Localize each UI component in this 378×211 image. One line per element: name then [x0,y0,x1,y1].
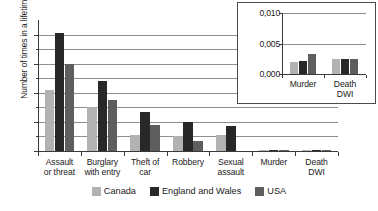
bar [183,122,193,151]
x-axis-tick [338,152,339,156]
legend-swatch-icon [150,187,159,196]
inset-bar [308,54,316,74]
legend-label: Canada [104,186,136,196]
bar [45,90,55,151]
inset-x-axis-tick [282,75,283,78]
bar [216,135,226,151]
bar [259,150,269,151]
y-axis-tick [34,93,39,94]
x-axis-label-line: Murder [249,157,298,167]
bar-chart: Number of times in a lifetime 01234 Assa… [0,0,378,211]
legend-item-england-and-wales: England and Wales [150,186,241,196]
inset-y-axis-tick-label: 0,000 [254,69,280,79]
bar [108,100,118,151]
x-axis-category-label: DeathDWI [292,157,341,177]
x-axis-label-line: with entry [78,167,127,177]
y-axis-tick [36,107,40,108]
x-axis-category-label: Assaultor threat [35,157,84,177]
inset-x-axis-label-line: Death [320,79,370,89]
inset-plot-area: 0,0000,0050,010 MurderDeathDWI [282,13,366,75]
bar [150,125,160,151]
y-axis-tick [36,136,40,137]
legend-swatch-icon [255,187,264,196]
y-axis-tick [34,64,39,65]
x-axis-category-label: Theft ofcar [121,157,170,177]
x-axis-tick [38,152,39,156]
bar [302,150,312,151]
bar [312,150,322,151]
x-axis-category-label: Robbery [164,157,213,167]
inset-bar [332,59,340,74]
x-axis-tick [295,152,296,156]
x-axis-tick [209,152,210,156]
inset-x-axis-tick [324,75,325,78]
legend-label: USA [267,186,286,196]
x-axis-tick [124,152,125,156]
inset-y-axis-tick-label: 0,005 [254,39,280,49]
bar [226,126,236,151]
inset-bar [299,61,307,74]
bar [173,136,183,151]
x-axis-category-label: Sexualassault [206,157,255,177]
bar [87,107,97,151]
y-axis-tick [36,49,40,50]
x-axis-label-line: Robbery [164,157,213,167]
inset-gridline [283,13,366,14]
bar [322,150,332,151]
legend: Canada England and Wales USA [0,186,378,196]
y-axis-tick [34,122,39,123]
x-axis-category-label: Burglarywith entry [78,157,127,177]
x-axis-tick [81,152,82,156]
x-axis-category-label: Murder [249,157,298,167]
bar [279,150,289,151]
inset-bar [350,59,358,74]
x-axis-line [38,151,338,152]
inset-x-axis-category-label: DeathDWI [320,79,370,99]
x-axis-label-line: Sexual [206,157,255,167]
x-axis-label-line: car [121,167,170,177]
x-axis-label-line: or threat [35,167,84,177]
bar [193,141,203,151]
bar [55,33,65,151]
legend-swatch-icon [92,187,101,196]
x-axis-label-line: assault [206,167,255,177]
legend-label: England and Wales [162,186,241,196]
y-axis-tick [36,78,40,79]
x-axis-label-line: Burglary [78,157,127,167]
y-axis-tick [34,35,39,36]
x-axis-tick [252,152,253,156]
inset-bar [290,62,298,74]
bar [140,112,150,151]
bar [98,81,108,151]
inset-chart: 0,0000,0050,010 MurderDeathDWI [237,2,376,104]
inset-x-axis-tick [366,75,367,78]
inset-gridline [283,44,366,45]
bar [269,150,279,151]
x-axis-tick [167,152,168,156]
inset-y-axis-tick-label: 0,010 [254,8,280,18]
legend-item-usa: USA [255,186,286,196]
y-axis-line [38,20,39,152]
x-axis-label-line: Theft of [121,157,170,167]
bar [65,64,75,151]
x-axis-label-line: Death [292,157,341,167]
x-axis-label-line: DWI [292,167,341,177]
inset-x-axis-label-line: DWI [320,89,370,99]
inset-bar [341,59,349,74]
legend-item-canada: Canada [92,186,136,196]
gridline [39,107,338,108]
x-axis-label-line: Assault [35,157,84,167]
bar [130,135,140,151]
